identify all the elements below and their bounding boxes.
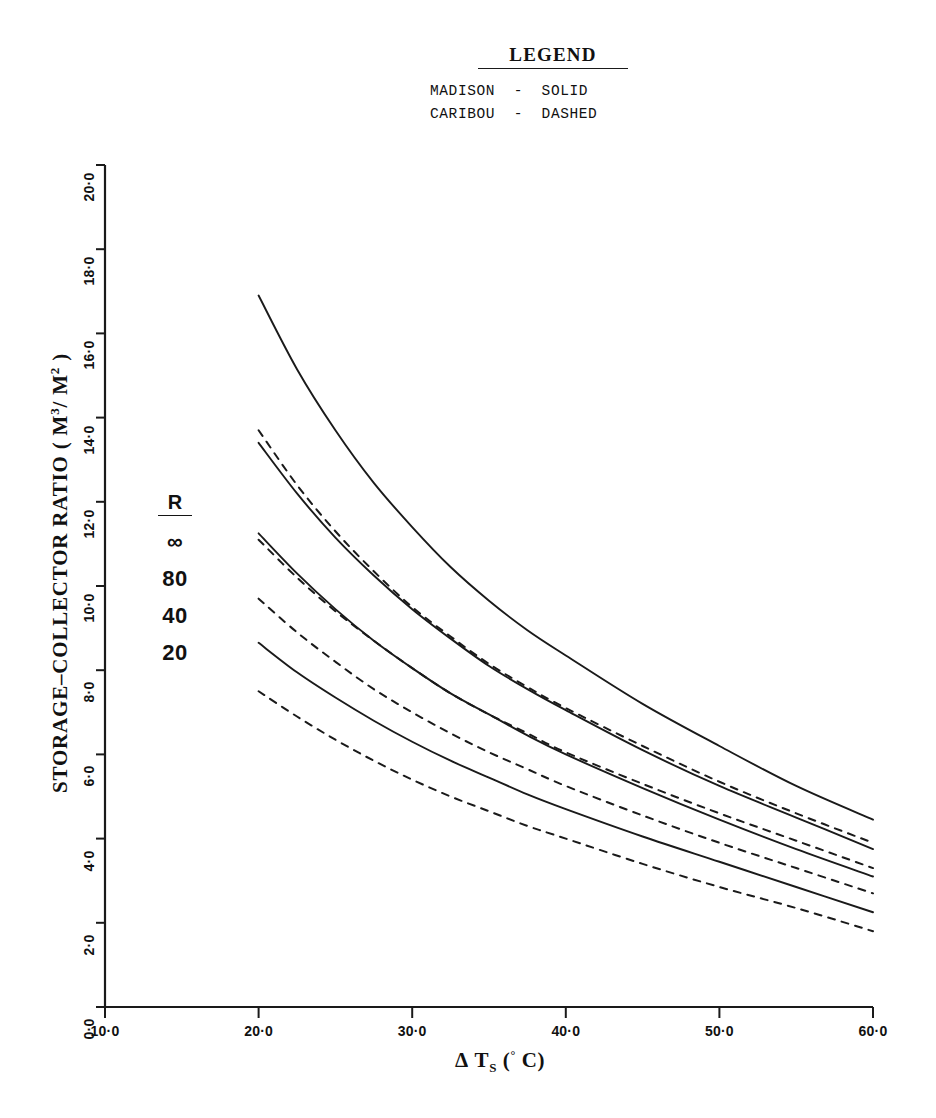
r-key-header: R xyxy=(158,492,192,516)
x-axis-title: Δ TS (° C) xyxy=(330,1048,670,1076)
x-tick-label: 20·0 xyxy=(231,1023,287,1039)
r-key-value-infinity: ∞ xyxy=(140,531,210,553)
x-axis-title-symbol: T xyxy=(475,1048,490,1072)
y-tick-label: 10·0 xyxy=(81,585,97,631)
y-axis-title-sup-2: 2 xyxy=(47,367,62,374)
y-axis-title-main: STORAGE–COLLECTOR RATIO ( M xyxy=(48,415,72,793)
x-tick-label: 10·0 xyxy=(77,1023,133,1039)
y-tick-label: 20·0 xyxy=(81,164,97,210)
data-curve-caribou-r80 xyxy=(259,540,873,868)
delta-symbol: Δ xyxy=(455,1048,469,1072)
data-curve-madison-rinf xyxy=(259,296,873,820)
chart-plot-area: STORAGE–COLLECTOR RATIO ( M3/ M2 ) Δ TS … xyxy=(0,0,936,1118)
x-tick-label: 30·0 xyxy=(384,1023,440,1039)
data-curve-madison-r40 xyxy=(259,533,873,876)
x-axis-unit: C xyxy=(522,1048,538,1072)
r-parameter-key: R ∞ 80 40 20 xyxy=(140,492,210,664)
y-tick-label: 14·0 xyxy=(81,417,97,463)
r-key-value-40: 40 xyxy=(140,605,210,627)
data-curve-madison-r80 xyxy=(259,443,873,849)
y-tick-label: 18·0 xyxy=(81,248,97,294)
y-tick-label: 12·0 xyxy=(81,501,97,547)
r-key-value-20: 20 xyxy=(140,642,210,664)
x-tick-label: 50·0 xyxy=(691,1023,747,1039)
y-tick-label: 2·0 xyxy=(81,922,97,968)
data-curve-caribou-rinf xyxy=(259,430,873,843)
x-tick-label: 60·0 xyxy=(845,1023,901,1039)
x-axis-title-subscript: S xyxy=(489,1060,497,1075)
y-axis-title: STORAGE–COLLECTOR RATIO ( M3/ M2 ) xyxy=(47,233,73,913)
y-axis-title-close: ) xyxy=(48,353,72,367)
degree-icon: ° xyxy=(510,1048,515,1062)
x-axis-units-close: ) xyxy=(537,1048,545,1072)
r-key-value-80: 80 xyxy=(140,568,210,590)
y-axis-title-sup-3: 3 xyxy=(47,408,62,415)
y-tick-label: 6·0 xyxy=(81,753,97,799)
y-tick-label: 4·0 xyxy=(81,838,97,884)
y-tick-label: 16·0 xyxy=(81,332,97,378)
y-tick-label: 8·0 xyxy=(81,669,97,715)
y-axis-title-slash: / M xyxy=(48,374,72,407)
x-tick-label: 40·0 xyxy=(538,1023,594,1039)
data-curve-caribou-r40 xyxy=(259,599,873,894)
